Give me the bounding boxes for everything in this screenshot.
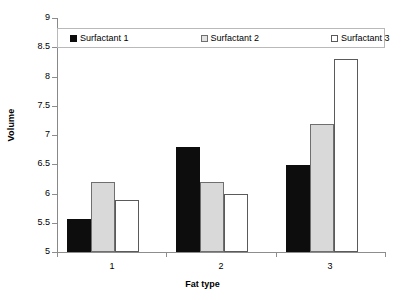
y-axis-tick-label: 5 (2, 247, 50, 256)
y-axis-label-wrap: 7.5 (0, 101, 50, 110)
empty-white-swatch-icon (331, 35, 338, 42)
y-axis-tick-label: 7 (2, 130, 50, 139)
filled-gray-swatch-icon (201, 35, 208, 42)
y-axis-tick-label: 8 (2, 72, 50, 81)
bar-chart: Volume 55.566.577.588.59 123 Fat type Su… (0, 0, 405, 300)
x-axis-tick-label: 2 (201, 261, 241, 271)
y-axis-tick (52, 164, 57, 165)
y-axis-label-wrap: 6.5 (0, 159, 50, 168)
bar-surfactant-2-fat-1 (91, 182, 115, 252)
bar-surfactant-3-fat-2 (224, 194, 248, 252)
x-axis-title: Fat type (0, 279, 405, 289)
y-axis-tick-label: 6.5 (2, 159, 50, 168)
y-axis-tick (52, 18, 57, 19)
y-axis-label-wrap: 8.5 (0, 42, 50, 51)
y-axis-tick-label: 8.5 (2, 42, 50, 51)
y-axis-label-wrap: 5 (0, 247, 50, 256)
y-axis-tick-label: 7.5 (2, 101, 50, 110)
x-axis-tick-label: 1 (92, 261, 132, 271)
y-axis-tick (52, 223, 57, 224)
y-axis-tick-label: 5.5 (2, 218, 50, 227)
y-axis-tick (52, 106, 57, 107)
legend-item-surfactant-3: Surfactant 3 (331, 34, 390, 43)
y-axis-tick (52, 194, 57, 195)
x-axis-line (57, 252, 385, 253)
y-axis-label-wrap: 5.5 (0, 218, 50, 227)
y-axis-label-wrap: 9 (0, 13, 50, 22)
bar-surfactant-1-fat-1 (67, 219, 91, 252)
bar-surfactant-3-fat-1 (115, 200, 139, 252)
legend-item-surfactant-1: Surfactant 1 (70, 34, 129, 43)
bar-surfactant-3-fat-3 (334, 59, 358, 252)
y-axis-tick-label: 6 (2, 189, 50, 198)
x-axis-tick (166, 252, 167, 257)
bar-surfactant-1-fat-3 (286, 165, 310, 252)
y-axis-label-wrap: 8 (0, 72, 50, 81)
x-axis-tick (57, 252, 58, 257)
x-axis-tick (385, 252, 386, 257)
legend-label: Surfactant 1 (80, 34, 129, 43)
legend-label: Surfactant 2 (211, 34, 260, 43)
legend-item-surfactant-2: Surfactant 2 (201, 34, 260, 43)
y-axis-label-wrap: 6 (0, 189, 50, 198)
x-axis-tick (276, 252, 277, 257)
legend-label: Surfactant 3 (341, 34, 390, 43)
y-axis-tick (52, 77, 57, 78)
x-axis-tick-label: 3 (310, 261, 350, 271)
y-axis-tick (52, 135, 57, 136)
bar-surfactant-2-fat-3 (310, 124, 334, 252)
filled-black-swatch-icon (70, 35, 77, 42)
bar-surfactant-1-fat-2 (176, 147, 200, 252)
y-axis-label-wrap: 7 (0, 130, 50, 139)
bar-surfactant-2-fat-2 (200, 182, 224, 252)
y-axis-tick-label: 9 (2, 13, 50, 22)
y-axis-line (57, 18, 58, 252)
chart-legend: Surfactant 1 Surfactant 2 Surfactant 3 (57, 28, 385, 48)
